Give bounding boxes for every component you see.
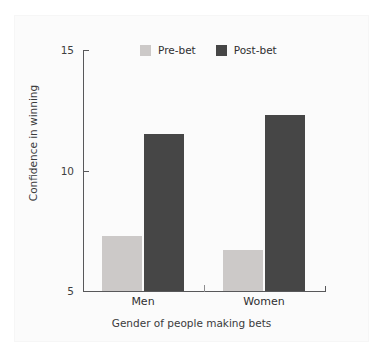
bar-men-post-bet <box>144 134 184 291</box>
bar-men-pre-bet <box>102 236 142 291</box>
x-category-label-women: Women <box>219 296 309 308</box>
x-category-label-men: Men <box>98 296 188 308</box>
bar-women-pre-bet <box>223 250 263 291</box>
bar-chart-figure: Pre-bet Post-bet 5 10 15 Men Women Gende… <box>0 0 383 357</box>
y-tick-15: 15 <box>52 45 74 55</box>
y-tick-10: 10 <box>52 166 74 176</box>
y-axis-title: Confidence in winning <box>27 63 39 223</box>
x-axis-title: Gender of people making bets <box>0 317 383 329</box>
y-tick-5: 5 <box>52 286 74 296</box>
y-tick-label-15: 15 <box>52 45 74 56</box>
y-tick-label-10: 10 <box>52 166 74 177</box>
bar-women-post-bet <box>265 115 305 291</box>
y-tick-label-5: 5 <box>52 286 74 297</box>
bars-container <box>83 50 326 291</box>
